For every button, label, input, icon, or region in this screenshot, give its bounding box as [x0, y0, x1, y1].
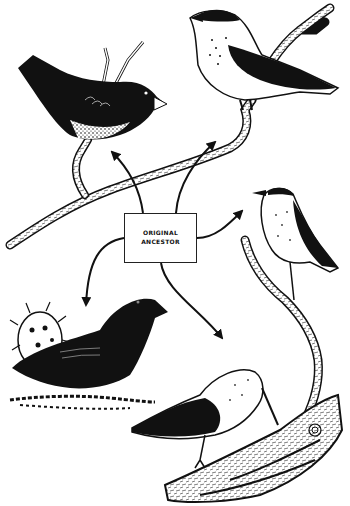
ancestor-label-line2: ANCESTOR	[141, 238, 180, 247]
ancestor-label-line1: ORIGINAL	[143, 229, 178, 238]
arrow-to-bottom-left	[86, 238, 124, 305]
dark-finch-top-left	[18, 55, 167, 140]
arrow-to-right	[197, 211, 242, 238]
original-ancestor-box: ORIGINAL ANCESTOR	[124, 213, 197, 263]
arrow-to-bottom-right	[161, 263, 222, 338]
